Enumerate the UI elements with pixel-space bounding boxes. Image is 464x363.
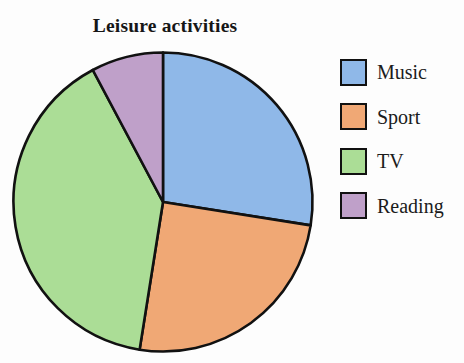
legend-label-reading: Reading (377, 196, 444, 216)
chart-title: Leisure activities (0, 15, 330, 37)
legend-label-music: Music (377, 62, 427, 82)
legend-swatch-reading (340, 192, 367, 219)
legend-item-reading[interactable]: Reading (340, 184, 464, 229)
legend-item-tv[interactable]: TV (340, 139, 464, 184)
legend-swatch-sport (340, 103, 367, 130)
pie-slice-sport[interactable] (140, 202, 311, 352)
pie-chart-figure: Leisure activities MusicSportTVReading (0, 0, 464, 363)
pie-slice-music[interactable] (163, 53, 313, 226)
legend-item-sport[interactable]: Sport (340, 95, 464, 140)
legend-swatch-music (340, 59, 367, 86)
legend-label-tv: TV (377, 151, 404, 171)
legend-swatch-tv (340, 148, 367, 175)
legend-label-sport: Sport (377, 107, 420, 127)
legend-item-music[interactable]: Music (340, 50, 464, 95)
pie-svg (8, 47, 320, 359)
chart-legend: MusicSportTVReading (340, 50, 464, 228)
pie-plot-area (8, 47, 320, 359)
pie-slices-group (13, 53, 312, 352)
